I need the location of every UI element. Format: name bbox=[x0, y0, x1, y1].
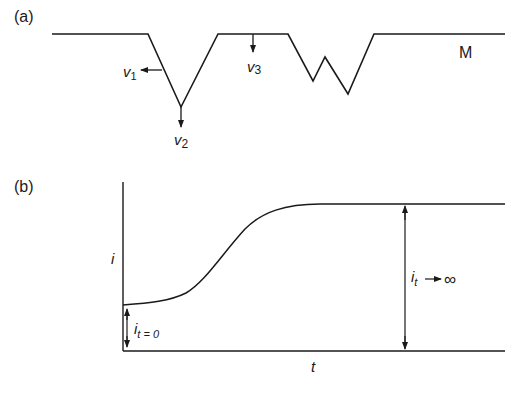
x-axis-label: t bbox=[311, 358, 316, 375]
v3-label: v3 bbox=[247, 58, 262, 77]
figure-canvas: (a) v1 v2 v3 M (b) i t it = 0 it ∞ bbox=[0, 0, 527, 393]
final-current-label: it bbox=[411, 268, 418, 288]
surface-label-m: M bbox=[459, 44, 472, 61]
y-axis-label: i bbox=[111, 250, 115, 267]
panel-a-label: (a) bbox=[14, 8, 34, 25]
surface-profile bbox=[52, 34, 505, 107]
v2-label: v2 bbox=[174, 131, 189, 151]
v1-label: v1 bbox=[123, 63, 137, 82]
infinity-symbol: ∞ bbox=[444, 270, 456, 289]
initial-current-label: it = 0 bbox=[134, 320, 160, 340]
panel-b-label: (b) bbox=[14, 178, 34, 195]
panel-b: (b) i t it = 0 it ∞ bbox=[14, 178, 505, 375]
current-curve bbox=[123, 204, 505, 305]
panel-a: (a) v1 v2 v3 M bbox=[14, 8, 505, 151]
